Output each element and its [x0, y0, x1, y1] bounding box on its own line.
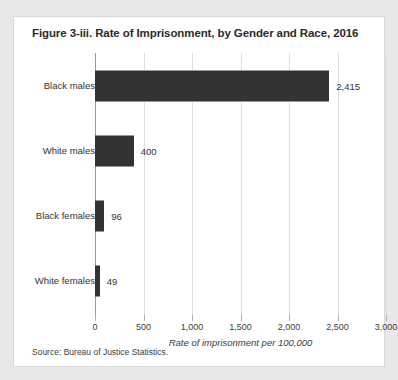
tick-mark-1000 — [192, 315, 193, 321]
bar-value-label: 2,415 — [336, 80, 360, 91]
figure-title: Figure 3-iii. Rate of Imprisonment, by G… — [32, 27, 372, 39]
bar-value-label: 49 — [107, 275, 118, 286]
bar-track: 2,415 — [95, 53, 386, 118]
tick-label: 1,000 — [181, 322, 204, 332]
bar — [95, 200, 104, 231]
category-label: White females — [35, 248, 95, 313]
chart-category-row: Black females96 — [14, 183, 386, 248]
tick-label: 2,500 — [326, 322, 349, 332]
tick-mark-0 — [95, 315, 96, 321]
chart-category-row: White females49 — [14, 248, 386, 313]
tick-mark-500 — [144, 315, 145, 321]
bar-track: 96 — [95, 183, 386, 248]
bar — [95, 70, 329, 101]
figure-card: Figure 3-iii. Rate of Imprisonment, by G… — [13, 16, 385, 367]
tick-label: 1,500 — [229, 322, 252, 332]
chart-plot-area: Black males2,415White males400Black fema… — [14, 53, 386, 315]
bar-value-label: 400 — [141, 145, 157, 156]
category-label: White males — [43, 118, 95, 183]
tick-mark-3000 — [386, 315, 387, 321]
source-note: Source: Bureau of Justice Statistics. — [32, 347, 168, 357]
tick-mark-2000 — [289, 315, 290, 321]
tick-mark-2500 — [338, 315, 339, 321]
bar — [95, 265, 100, 296]
tick-label: 3,000 — [375, 322, 398, 332]
tick-label: 2,000 — [278, 322, 301, 332]
chart-category-row: Black males2,415 — [14, 53, 386, 118]
chart-category-row: White males400 — [14, 118, 386, 183]
bar-track: 49 — [95, 248, 386, 313]
tick-label: 0 — [92, 322, 97, 332]
bar-track: 400 — [95, 118, 386, 183]
x-axis-tick-labels: 05001,0001,5002,0002,5003,000 — [95, 322, 386, 336]
tick-mark-1500 — [241, 315, 242, 321]
tick-label: 500 — [136, 322, 151, 332]
x-axis-tick-marks — [95, 315, 386, 322]
category-label: Black females — [36, 183, 95, 248]
gridline-3000 — [386, 53, 387, 315]
category-label: Black males — [44, 53, 95, 118]
bar-value-label: 96 — [111, 210, 122, 221]
bar — [95, 135, 134, 166]
